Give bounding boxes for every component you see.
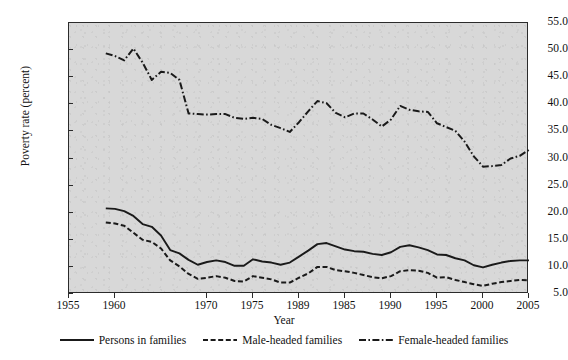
y-tick-label: 40.0 xyxy=(510,97,568,109)
y-tick-label: 10.0 xyxy=(510,260,568,272)
y-tick-label: 55.0 xyxy=(510,16,568,28)
y-tick-label: 25.0 xyxy=(510,179,568,191)
y-axis-title: Poverty rate (percent) xyxy=(19,36,31,196)
y-tick-mark xyxy=(68,22,73,23)
x-tick-mark xyxy=(528,293,529,298)
x-tick-mark xyxy=(390,293,391,298)
chart-figure: 5.010.015.020.025.030.035.040.045.050.05… xyxy=(0,0,568,360)
x-tick-label: 2005 xyxy=(498,299,558,311)
x-tick-mark xyxy=(252,293,253,298)
x-axis-title: Year xyxy=(0,314,568,326)
y-tick-mark xyxy=(68,212,73,213)
y-tick-label: 30.0 xyxy=(510,152,568,164)
x-tick-mark xyxy=(436,293,437,298)
legend-swatch-dash-dot xyxy=(359,335,393,345)
legend-entry[interactable]: Female-headed families xyxy=(359,334,508,346)
y-tick-mark xyxy=(68,185,73,186)
y-tick-mark xyxy=(68,158,73,159)
y-tick-label: 45.0 xyxy=(510,70,568,82)
y-tick-mark xyxy=(68,266,73,267)
y-tick-label: 50.0 xyxy=(510,43,568,55)
legend-swatch-dashed xyxy=(203,335,237,345)
x-tick-mark xyxy=(344,293,345,298)
x-tick-mark xyxy=(206,293,207,298)
series-line xyxy=(106,222,529,285)
y-tick-label: 5.0 xyxy=(510,287,568,299)
plot-area xyxy=(68,22,528,293)
chart-legend: Persons in familiesMale-headed familiesF… xyxy=(0,334,568,346)
legend-entry[interactable]: Persons in families xyxy=(60,334,187,346)
y-tick-mark xyxy=(68,76,73,77)
x-tick-mark xyxy=(68,293,69,298)
y-tick-label: 35.0 xyxy=(510,124,568,136)
y-tick-mark xyxy=(68,239,73,240)
y-tick-mark xyxy=(68,130,73,131)
y-tick-label: 20.0 xyxy=(510,206,568,218)
series-layer xyxy=(69,23,529,294)
legend-label: Male-headed families xyxy=(242,334,342,346)
x-tick-mark xyxy=(482,293,483,298)
legend-swatch-solid xyxy=(60,335,94,345)
y-tick-label: 15.0 xyxy=(510,233,568,245)
series-line xyxy=(106,208,529,267)
y-tick-mark xyxy=(68,103,73,104)
legend-label: Female-headed families xyxy=(398,334,508,346)
x-tick-mark xyxy=(114,293,115,298)
legend-entry[interactable]: Male-headed families xyxy=(203,334,342,346)
y-tick-mark xyxy=(68,49,73,50)
x-tick-label: 1960 xyxy=(84,299,144,311)
legend-label: Persons in families xyxy=(99,334,187,346)
x-tick-mark xyxy=(298,293,299,298)
series-line xyxy=(106,48,529,166)
